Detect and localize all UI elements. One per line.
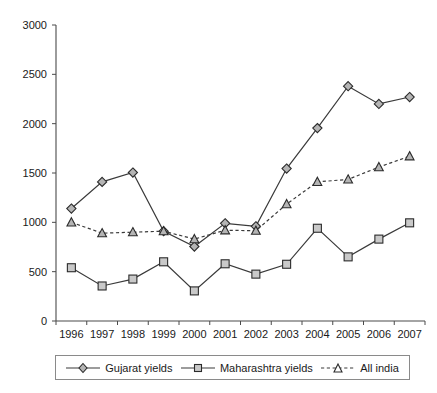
y-axis-tick-label: 500 — [29, 266, 47, 278]
data-series — [67, 152, 414, 243]
x-axis-tick-label: 1997 — [90, 328, 114, 340]
data-point-marker — [67, 218, 76, 226]
data-point-marker — [282, 164, 291, 173]
diamond-marker — [66, 362, 100, 374]
x-axis-tick-label: 2001 — [213, 328, 237, 340]
data-point-marker — [405, 92, 414, 101]
x-axis-tick-label: 2000 — [182, 328, 206, 340]
series-line — [71, 156, 409, 239]
x-axis-tick-label: 2006 — [367, 328, 391, 340]
x-axis-tick-label: 2002 — [244, 328, 268, 340]
data-point-marker — [344, 175, 353, 183]
data-series-layer — [67, 82, 414, 295]
data-point-marker — [375, 235, 383, 243]
y-axis-tick-label: 1000 — [23, 216, 47, 228]
data-point-marker — [221, 226, 230, 234]
y-axis-tick-labels: 050010001500200025003000 — [23, 19, 47, 327]
chart-plot-area: 050010001500200025003000 199619971998199… — [0, 0, 437, 393]
legend-item: Maharashtra yields — [181, 362, 313, 374]
x-axis-tick-label: 1999 — [151, 328, 175, 340]
square-marker — [181, 362, 215, 374]
x-axis-tick-label: 2004 — [305, 328, 329, 340]
legend-item-label: Gujarat yields — [105, 362, 172, 374]
data-point-marker — [190, 287, 198, 295]
data-point-marker — [221, 260, 229, 268]
line-chart: 050010001500200025003000 199619971998199… — [0, 0, 437, 393]
data-point-marker — [160, 258, 168, 266]
data-point-marker — [344, 253, 352, 261]
legend-item: Gujarat yields — [66, 362, 172, 374]
data-point-marker — [190, 242, 199, 251]
y-axis-tick-label: 1500 — [23, 167, 47, 179]
x-axis-tick-label: 1998 — [121, 328, 145, 340]
triangle-marker — [321, 362, 355, 374]
chart-legend: Gujarat yields Maharashtra yields All in… — [55, 355, 410, 380]
legend-item-label: All india — [360, 362, 399, 374]
data-point-marker — [344, 82, 353, 91]
data-point-marker — [313, 224, 321, 232]
data-point-marker — [67, 264, 75, 272]
legend-item-label: Maharashtra yields — [220, 362, 313, 374]
y-axis-tick-label: 2500 — [23, 68, 47, 80]
data-point-marker — [374, 162, 383, 170]
y-axis-tick-label: 0 — [41, 315, 47, 327]
data-point-marker — [252, 270, 260, 278]
data-point-marker — [405, 152, 414, 160]
data-point-marker — [406, 219, 414, 227]
data-point-marker — [98, 282, 106, 290]
y-axis-tick-label: 2000 — [23, 118, 47, 130]
x-axis-tick-label: 2003 — [274, 328, 298, 340]
data-point-marker — [283, 260, 291, 268]
x-axis-tick-label: 2005 — [336, 328, 360, 340]
data-point-marker — [282, 199, 291, 207]
series-line — [71, 86, 409, 246]
data-series — [67, 82, 414, 252]
x-axis-tick-marks — [56, 321, 425, 325]
y-axis-tick-marks — [52, 25, 56, 321]
x-axis-tick-label: 1996 — [59, 328, 83, 340]
data-point-marker — [313, 124, 322, 133]
data-point-marker — [129, 275, 137, 283]
x-axis-tick-label: 2007 — [397, 328, 421, 340]
legend-item: All india — [321, 362, 399, 374]
data-series — [67, 219, 413, 295]
y-axis-tick-label: 3000 — [23, 19, 47, 31]
data-point-marker — [128, 168, 137, 177]
data-point-marker — [313, 177, 322, 185]
data-point-marker — [374, 99, 383, 108]
x-axis-tick-labels: 1996199719981999200020012002200320042005… — [59, 328, 422, 340]
